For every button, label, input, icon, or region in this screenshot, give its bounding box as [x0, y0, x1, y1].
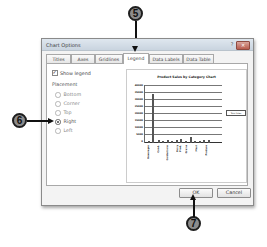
callout-step-5: 5 — [128, 6, 143, 21]
y-tick: 15000 — [131, 119, 143, 122]
x-label: Produce — [205, 145, 208, 156]
chart-bar — [199, 141, 201, 143]
chart-bar — [203, 140, 205, 143]
ok-button[interactable]: OK — [179, 188, 213, 198]
show-legend-checkbox[interactable]: Show legend — [52, 70, 91, 76]
chart-bar — [148, 141, 150, 143]
x-label: Grains — [185, 145, 188, 153]
callout-7-arrowhead — [190, 194, 196, 200]
gridline — [145, 92, 222, 93]
show-legend-label: Show legend — [60, 71, 91, 76]
chart-bar — [208, 140, 210, 143]
x-label: Cond. — [157, 145, 160, 152]
dialog-title: Chart Options — [46, 42, 81, 48]
chart-bar — [171, 141, 173, 143]
y-tick: 35000 — [131, 91, 143, 94]
gridline — [145, 120, 222, 121]
callout-6-arrowhead — [48, 118, 54, 124]
radio-label-bottom: Bottom — [64, 92, 82, 97]
title-bar: Chart Options ? ✕ — [42, 39, 253, 51]
x-label: Dairy Prod. — [176, 145, 182, 152]
x-label: Beverages — [147, 145, 150, 159]
chart-bar — [180, 139, 182, 143]
chart-bar — [152, 94, 154, 143]
y-tick: 20000 — [131, 112, 143, 115]
close-button[interactable]: ✕ — [236, 41, 250, 50]
tab-legend[interactable]: Legend — [123, 53, 149, 64]
chart-bar — [162, 141, 164, 143]
x-axis — [145, 142, 222, 143]
placement-radio-right[interactable]: Right — [55, 119, 76, 125]
radio-label-left: Left — [64, 128, 73, 133]
y-tick: 0 — [131, 140, 143, 143]
gridline — [145, 106, 222, 107]
chart-bar — [158, 140, 160, 143]
chart-bar — [194, 141, 196, 143]
cancel-button[interactable]: Cancel — [217, 188, 251, 198]
radio-icon[interactable] — [55, 92, 61, 98]
tab-data-table[interactable]: Data Table — [183, 54, 214, 63]
chart-preview: Product Sales by Category Chart 40000 35… — [126, 69, 247, 183]
y-tick: 5000 — [131, 133, 143, 136]
y-tick: 40000 — [131, 84, 143, 87]
y-tick: 25000 — [131, 105, 143, 108]
callout-5-arrowhead — [132, 46, 138, 52]
placement-label: Placement — [52, 82, 77, 87]
callout-7-arrow — [193, 200, 195, 217]
checkbox-icon[interactable] — [52, 70, 58, 76]
callout-6-arrow — [27, 120, 49, 122]
placement-radio-corner[interactable]: Corner — [55, 101, 80, 107]
radio-label-corner: Corner — [64, 101, 80, 106]
radio-label-right: Right — [64, 119, 77, 124]
callout-step-6: 6 — [12, 113, 27, 128]
preview-chart-title: Product Sales by Category Chart — [127, 75, 246, 79]
legend-tab-panel: Show legend Placement Bottom Corner Top … — [46, 63, 248, 186]
tab-gridlines[interactable]: Gridlines — [95, 54, 123, 63]
tab-data-labels[interactable]: Data Labels — [149, 54, 183, 63]
callout-step-7: 7 — [186, 216, 201, 231]
preview-legend: Total Sales — [226, 110, 246, 116]
radio-icon[interactable] — [55, 128, 61, 134]
radio-icon[interactable] — [55, 101, 61, 107]
x-label: Meat — [195, 145, 198, 152]
placement-radio-bottom[interactable]: Bottom — [55, 92, 81, 98]
x-label: Confections — [166, 145, 169, 160]
y-tick: 10000 — [131, 126, 143, 129]
chart-bar — [176, 140, 178, 143]
tab-axes[interactable]: Axes — [71, 54, 95, 63]
gridline — [145, 134, 222, 135]
gridline — [145, 85, 222, 86]
radio-selected-icon[interactable] — [55, 119, 61, 125]
gridline — [145, 127, 222, 128]
radio-icon[interactable] — [55, 110, 61, 116]
preview-plot-area: 40000 35000 30000 25000 20000 15000 1000… — [144, 85, 222, 143]
placement-radio-left[interactable]: Left — [55, 128, 73, 134]
placement-radio-top[interactable]: Top — [55, 110, 72, 116]
gridline — [145, 113, 222, 114]
tab-titles[interactable]: Titles — [46, 54, 71, 63]
gridline — [145, 99, 222, 100]
chart-options-dialog: Chart Options ? ✕ Titles Axes Gridlines … — [41, 38, 254, 206]
y-tick: 30000 — [131, 98, 143, 101]
chart-bar — [167, 140, 169, 143]
chart-bar — [185, 141, 187, 143]
chart-bar — [190, 137, 192, 143]
help-button[interactable]: ? — [228, 41, 236, 48]
radio-label-top: Top — [64, 110, 72, 115]
